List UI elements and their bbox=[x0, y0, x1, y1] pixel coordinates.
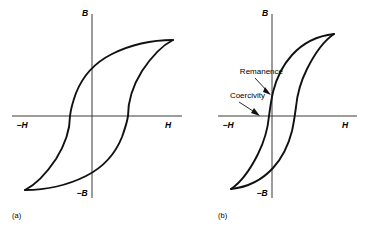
coercivity-label: Coercivity bbox=[230, 91, 265, 100]
panel-a-b-axis-label: B bbox=[82, 8, 88, 18]
panel-b: B −B H −H Remanence Coercivity (b) bbox=[218, 8, 357, 220]
panel-b-lower-branch bbox=[231, 34, 334, 189]
panel-b-negative-b-axis-label: −B bbox=[256, 188, 267, 198]
panel-b-upper-branch bbox=[231, 34, 334, 189]
panel-a: B −B H −H (a) bbox=[12, 8, 182, 220]
panel-b-h-axis-label: H bbox=[342, 120, 349, 130]
panel-b-b-axis-label: B bbox=[262, 8, 268, 18]
panel-b-negative-h-axis-label: −H bbox=[222, 120, 234, 130]
coercivity-arrow-icon bbox=[251, 108, 260, 116]
remanence-label: Remanence bbox=[240, 67, 284, 76]
panel-a-negative-b-axis-label: −B bbox=[76, 188, 87, 198]
figure-canvas: B −B H −H (a) B −B H −H Remane bbox=[0, 0, 366, 234]
panel-a-caption: (a) bbox=[12, 211, 22, 220]
panel-b-caption: (b) bbox=[218, 211, 228, 220]
panel-a-negative-h-axis-label: −H bbox=[16, 120, 28, 130]
hysteresis-figure: B −B H −H (a) B −B H −H Remane bbox=[0, 0, 366, 234]
coercivity-annotation: Coercivity bbox=[230, 91, 265, 116]
panel-a-h-axis-label: H bbox=[165, 120, 172, 130]
